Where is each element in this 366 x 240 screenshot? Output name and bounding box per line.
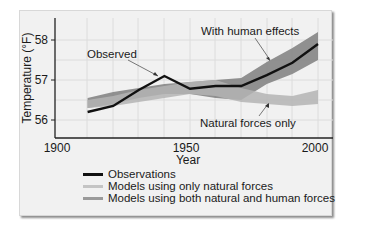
annotation-natural-forces: Natural forces only: [200, 117, 296, 129]
legend-item-observations: Observations: [83, 168, 335, 180]
legend: Observations Models using only natural f…: [83, 168, 335, 204]
legend-label: Models using both natural and human forc…: [108, 192, 335, 204]
legend-swatch-human: [83, 197, 103, 200]
y-tick-57: 57: [35, 73, 49, 87]
model-bands: [88, 32, 318, 108]
legend-item-human: Models using both natural and human forc…: [83, 192, 335, 204]
y-axis-label: Temperature (°F): [20, 33, 34, 124]
legend-swatch-natural: [83, 185, 103, 188]
annotation-human-effects: With human effects: [201, 25, 299, 37]
legend-label: Models using only natural forces: [108, 180, 273, 192]
y-tick-56: 56: [35, 113, 49, 127]
x-tick-1900: 1900: [44, 141, 71, 155]
legend-item-natural: Models using only natural forces: [83, 180, 335, 192]
y-tick-58: 58: [35, 33, 49, 47]
x-tick-2000: 2000: [302, 141, 329, 155]
natural-forces-band: [88, 80, 318, 108]
x-axis-label: Year: [176, 153, 200, 167]
annotation-observed: Observed: [87, 48, 137, 60]
legend-swatch-observations: [83, 173, 103, 176]
legend-label: Observations: [108, 168, 176, 180]
